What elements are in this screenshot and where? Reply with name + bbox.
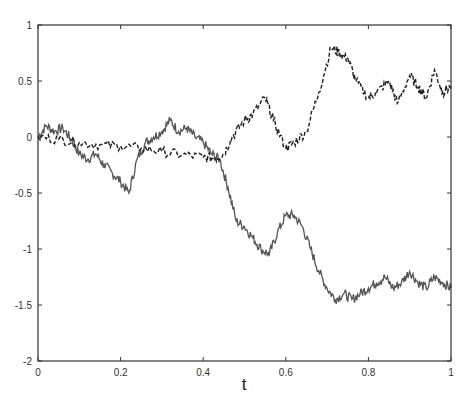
x-tick-label: 0 xyxy=(35,367,41,378)
y-tick-label: 0 xyxy=(26,132,32,143)
plot-frame xyxy=(38,25,451,361)
y-tick-label: -0.5 xyxy=(15,188,33,199)
x-tick-label: 0.8 xyxy=(361,367,375,378)
x-ticks: 00.20.40.60.81 xyxy=(35,25,454,378)
y-tick-label: 1 xyxy=(26,20,32,31)
y-tick-label: -2 xyxy=(23,356,32,367)
plot-series xyxy=(38,46,451,304)
y-tick-label: -1.5 xyxy=(15,300,33,311)
x-tick-label: 0.4 xyxy=(196,367,210,378)
line-chart: 00.20.40.60.81 10.50-0.5-1-1.5-2 t xyxy=(0,0,472,410)
y-ticks: 10.50-0.5-1-1.5-2 xyxy=(15,20,451,367)
x-tick-label: 1 xyxy=(448,367,454,378)
y-tick-label: 0.5 xyxy=(18,76,32,87)
x-tick-label: 0.2 xyxy=(114,367,128,378)
y-tick-label: -1 xyxy=(23,244,32,255)
x-axis-label: t xyxy=(242,375,247,394)
x-tick-label: 0.6 xyxy=(279,367,293,378)
series-line-dashed xyxy=(38,46,451,162)
